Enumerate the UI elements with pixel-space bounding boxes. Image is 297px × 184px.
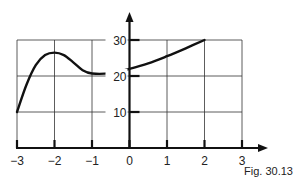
x-axis-arrow [258, 144, 268, 152]
x-tick-label: 1 [164, 154, 171, 168]
x-tick-label: 2 [201, 154, 208, 168]
y-tick-label: 30 [113, 34, 127, 48]
x-tick-label: −3 [10, 154, 24, 168]
x-tick-label: 0 [126, 154, 133, 168]
x-tick-label: −2 [48, 154, 62, 168]
axes [16, 12, 268, 152]
chart: −3−2−10123102030 Fig. 30.13 [0, 0, 297, 184]
figure-caption: Fig. 30.13 [244, 165, 293, 177]
y-tick-label: 20 [113, 70, 127, 84]
x-tick-label: −1 [85, 154, 99, 168]
y-axis-arrow [126, 12, 134, 22]
y-tick-label: 10 [113, 106, 127, 120]
